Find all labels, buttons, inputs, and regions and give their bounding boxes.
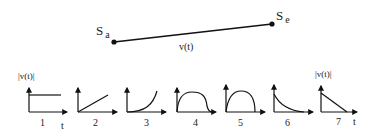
profile-number: 1: [40, 117, 45, 128]
curve-convex-increasing: [127, 91, 157, 112]
profile-number: 4: [193, 117, 198, 128]
x-axis-label-left: t: [61, 120, 64, 131]
profile-3: 3: [127, 88, 166, 128]
curve-decaying: [274, 94, 304, 112]
profile-number: 2: [93, 117, 98, 128]
profile-number: 6: [285, 117, 290, 128]
curve-linear-increasing: [78, 95, 108, 112]
path-segment: Sa Se v(t): [96, 8, 290, 53]
profile-number: 7: [336, 116, 341, 127]
start-point: [111, 39, 116, 44]
y-axis-label-left: |v(t)|: [18, 71, 35, 81]
start-label: Sa: [96, 23, 110, 40]
profile-6: 6: [274, 85, 313, 128]
profile-4: 4: [177, 88, 216, 128]
curve-plateau-bump: [177, 92, 212, 112]
profile-7: 7: [321, 86, 357, 127]
profile-number: 5: [238, 117, 243, 128]
end-label: Se: [276, 8, 290, 25]
end-point: [269, 21, 274, 26]
profile-number: 3: [144, 117, 149, 128]
curve-linear-decreasing: [321, 93, 347, 112]
profile-5: 5: [226, 85, 265, 128]
trajectory-line: [114, 24, 272, 42]
edge-label: v(t): [179, 41, 193, 53]
velocity-profile-diagram: Sa Se v(t) |v(t)| t |v(t)| t 1 2 3 4: [0, 0, 376, 135]
profile-2: 2: [78, 88, 117, 128]
curve-arc: [226, 91, 255, 112]
y-axis-label-right: |v(t)|: [315, 69, 332, 79]
x-axis-label-right: t: [353, 116, 356, 127]
